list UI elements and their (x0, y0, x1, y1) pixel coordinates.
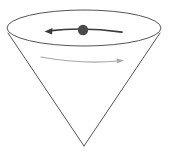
cone-diagram-figure (0, 0, 171, 166)
cone-diagram-canvas (0, 0, 171, 166)
particle-dot (78, 25, 88, 35)
cone-right-edge (84, 33, 160, 146)
cone-left-edge (8, 33, 84, 146)
rotation-arrow-right (41, 57, 124, 63)
